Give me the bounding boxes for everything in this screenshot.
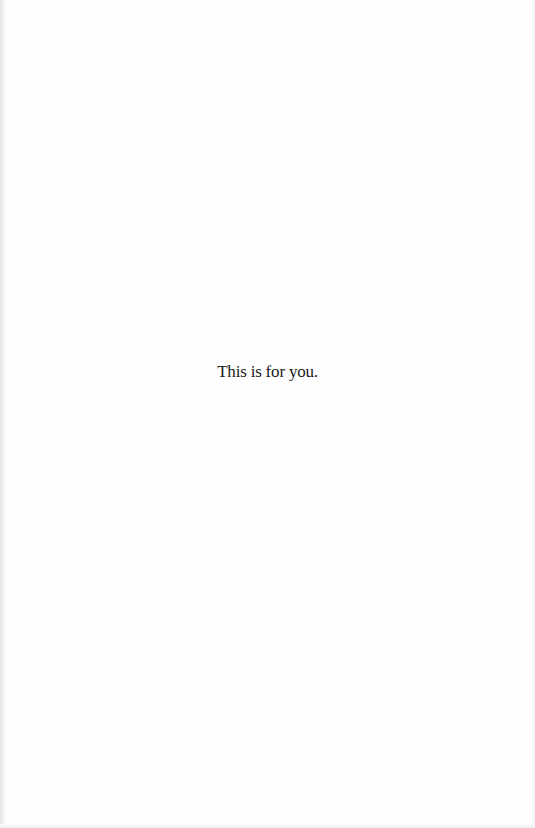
- dedication-text: This is for you.: [0, 362, 535, 382]
- page-gutter-shadow: [0, 0, 6, 828]
- book-page: This is for you.: [0, 0, 535, 828]
- page-edge-bottom: [0, 824, 535, 828]
